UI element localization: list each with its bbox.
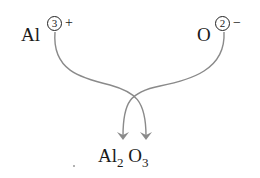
product-subscript-2: 3	[142, 155, 149, 170]
product-element-1: Al	[98, 145, 117, 166]
product-formula: Al2 O3	[98, 146, 148, 165]
product-element-2: O	[128, 145, 142, 166]
product-subscript-1: 2	[117, 155, 124, 170]
arrow-anion-to-product	[123, 32, 224, 136]
arrow-cation-to-product	[55, 32, 146, 136]
speck	[73, 165, 75, 167]
